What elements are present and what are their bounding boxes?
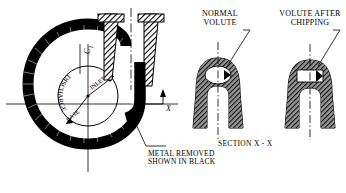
- axis-c1-subscript: 1: [87, 45, 94, 48]
- arrow-label-lower: BASE: [65, 108, 81, 123]
- label-volute-after-chipping: VOLUTE AFTER CHIPPING: [274, 10, 346, 28]
- label-area-normal: A1: [209, 69, 216, 78]
- area-chipped-subscript: 2: [303, 71, 306, 77]
- spiral-volute-band: [23, 24, 141, 144]
- area-normal-subscript: 1: [213, 71, 216, 77]
- label-axis-x: X: [166, 105, 171, 114]
- diagram-canvas: DISCHARGE INLET BASE: [0, 0, 346, 193]
- discharge-nozzle: [98, 8, 164, 90]
- cutwater: [126, 62, 140, 118]
- axis-c1-letter: C: [83, 49, 92, 54]
- section-normal-volute: [193, 30, 250, 140]
- label-section-x-x: SECTION X - X: [218, 140, 273, 148]
- volute-plan-view: DISCHARGE INLET BASE: [6, 8, 178, 172]
- label-normal-volute: NORMAL VOLUTE: [189, 10, 251, 28]
- discharge-curved-label: DISCHARGE: [56, 73, 72, 114]
- label-axis-c1: C1: [84, 45, 94, 54]
- label-metal-removed: METAL REMOVED SHOWN IN BLACK: [148, 150, 215, 167]
- label-area-chipped: A2: [299, 69, 306, 78]
- section-chipped-volute: [285, 30, 340, 140]
